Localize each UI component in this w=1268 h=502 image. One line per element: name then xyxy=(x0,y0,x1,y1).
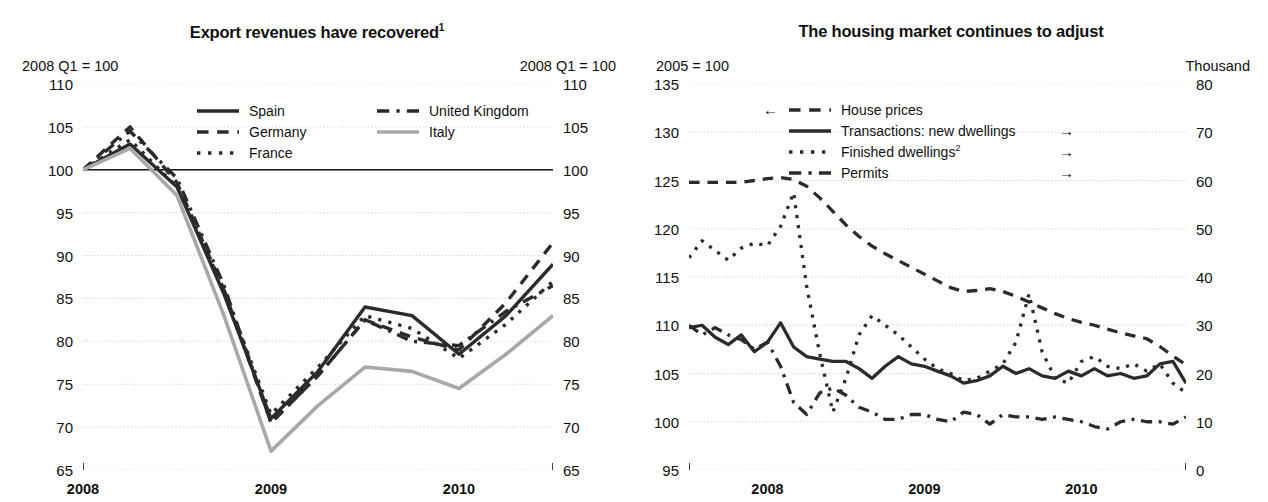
ytick-right-70: 70 xyxy=(563,420,623,435)
panel-title-right-text: The housing market continues to adjust xyxy=(798,22,1103,40)
xtick-label-2009: 2009 xyxy=(894,481,954,497)
ytick-right-95: 95 xyxy=(563,206,623,221)
ytick-right-60: 60 xyxy=(1196,174,1256,189)
legend-label: United Kingdom xyxy=(429,103,529,119)
ytick-right-40: 40 xyxy=(1196,270,1256,285)
legend-label: House prices xyxy=(841,102,923,118)
ytick-right-0: 0 xyxy=(1196,463,1256,478)
ytick-right-75: 75 xyxy=(563,377,623,392)
xtick-label-2009: 2009 xyxy=(241,481,301,497)
legend-row: Transactions: new dwellings→ xyxy=(744,120,1074,141)
panel-title-left: Export revenues have recovered1 xyxy=(0,22,634,42)
ytick-left-110: 110 xyxy=(13,77,73,92)
legend-row: GermanyItaly xyxy=(196,121,529,142)
legend-swatch-spain-icon xyxy=(196,104,240,118)
ytick-right-85: 85 xyxy=(563,291,623,306)
legend-swatch-permits-icon xyxy=(788,166,832,180)
chart-panel-housing-market: The housing market continues to adjust 2… xyxy=(634,0,1268,502)
ytick-right-80: 80 xyxy=(563,334,623,349)
legend-row: Permits→ xyxy=(744,162,1074,183)
ytick-right-30: 30 xyxy=(1196,318,1256,333)
ytick-left-95: 95 xyxy=(13,206,73,221)
ytick-left-135: 135 xyxy=(619,77,679,92)
ytick-right-70: 70 xyxy=(1196,125,1256,140)
panel-title-left-footnote: 1 xyxy=(439,22,444,33)
ytick-left-105: 105 xyxy=(13,120,73,135)
legend-label: Spain xyxy=(249,103,285,119)
legend-label-footnote: 2 xyxy=(955,143,960,153)
panel-title-left-text: Export revenues have recovered xyxy=(190,23,439,41)
ytick-left-110: 110 xyxy=(619,318,679,333)
ytick-left-100: 100 xyxy=(619,415,679,430)
legend-swatch-france-icon xyxy=(196,146,240,160)
legend-label: Permits xyxy=(841,165,888,181)
legend-swatch-house-prices-icon xyxy=(788,103,832,117)
legend-label: Finished dwellings2 xyxy=(841,143,960,160)
ytick-left-120: 120 xyxy=(619,222,679,237)
legend-swatch-italy-icon xyxy=(376,125,420,139)
legend-right: ←House pricesTransactions: new dwellings… xyxy=(744,99,1074,183)
panel-title-right: The housing market continues to adjust xyxy=(634,22,1268,41)
ytick-left-85: 85 xyxy=(13,291,73,306)
legend-arrow-right-icon: → xyxy=(1047,165,1074,180)
ytick-left-70: 70 xyxy=(13,420,73,435)
ytick-left-105: 105 xyxy=(619,367,679,382)
legend-label: Transactions: new dwellings xyxy=(841,123,1016,139)
ytick-right-10: 10 xyxy=(1196,415,1256,430)
ytick-right-20: 20 xyxy=(1196,367,1256,382)
legend-row: ←House prices xyxy=(744,99,1074,120)
ytick-right-100: 100 xyxy=(563,163,623,178)
ytick-left-130: 130 xyxy=(619,125,679,140)
ytick-right-50: 50 xyxy=(1196,222,1256,237)
series-line-united-kingdom xyxy=(83,131,553,423)
series-line-permits xyxy=(689,325,1186,429)
ytick-right-105: 105 xyxy=(563,120,623,135)
legend-arrow-right-icon: → xyxy=(1047,123,1074,138)
ytick-right-65: 65 xyxy=(563,463,623,478)
figure-root: Export revenues have recovered1 2008 Q1 … xyxy=(0,0,1268,502)
ytick-right-80: 80 xyxy=(1196,77,1256,92)
xtick-label-2010: 2010 xyxy=(1051,481,1111,497)
ytick-left-115: 115 xyxy=(619,270,679,285)
legend-row: SpainUnited Kingdom xyxy=(196,100,529,121)
legend-left: SpainUnited KingdomGermanyItalyFrance xyxy=(196,100,529,163)
ytick-left-100: 100 xyxy=(13,163,73,178)
legend-label: Italy xyxy=(429,124,455,140)
ytick-left-95: 95 xyxy=(619,463,679,478)
xtick-label-2010: 2010 xyxy=(429,481,489,497)
ytick-left-90: 90 xyxy=(13,249,73,264)
legend-label: Germany xyxy=(249,124,307,140)
ytick-left-80: 80 xyxy=(13,334,73,349)
xtick-label-2008: 2008 xyxy=(737,481,797,497)
legend-label: France xyxy=(249,145,293,161)
legend-arrow-left-icon: ← xyxy=(744,102,788,117)
legend-swatch-finished-dwellings-icon xyxy=(788,145,832,159)
series-line-house-prices xyxy=(689,178,1186,365)
legend-arrow-right-icon: → xyxy=(1047,144,1074,159)
unit-label-left-top-right: 2008 Q1 = 100 xyxy=(520,58,616,74)
legend-row: France xyxy=(196,142,529,163)
series-line-italy xyxy=(83,148,553,451)
ytick-right-90: 90 xyxy=(563,249,623,264)
ytick-left-65: 65 xyxy=(13,463,73,478)
legend-swatch-transactions-new-dwellings-icon xyxy=(788,124,832,138)
unit-label-right-top-right: Thousand xyxy=(1186,58,1251,74)
ytick-right-110: 110 xyxy=(563,77,623,92)
xtick-label-2008: 2008 xyxy=(53,481,113,497)
unit-label-left-top-left: 2008 Q1 = 100 xyxy=(22,58,118,74)
legend-swatch-united-kingdom-icon xyxy=(376,104,420,118)
unit-label-right-top-left: 2005 = 100 xyxy=(656,58,729,74)
legend-swatch-germany-icon xyxy=(196,125,240,139)
ytick-left-75: 75 xyxy=(13,377,73,392)
legend-row: Finished dwellings2→ xyxy=(744,141,1074,162)
ytick-left-125: 125 xyxy=(619,174,679,189)
chart-panel-export-revenues: Export revenues have recovered1 2008 Q1 … xyxy=(0,0,634,502)
series-line-finished-dwellings xyxy=(689,193,1186,413)
